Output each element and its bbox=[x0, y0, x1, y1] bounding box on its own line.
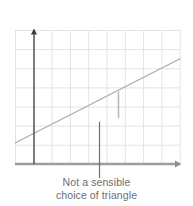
caption-line-1: Not a sensible bbox=[0, 176, 193, 189]
caption-line-2: choice of triangle bbox=[0, 189, 193, 202]
figure-caption: Not a sensible choice of triangle bbox=[0, 176, 193, 202]
